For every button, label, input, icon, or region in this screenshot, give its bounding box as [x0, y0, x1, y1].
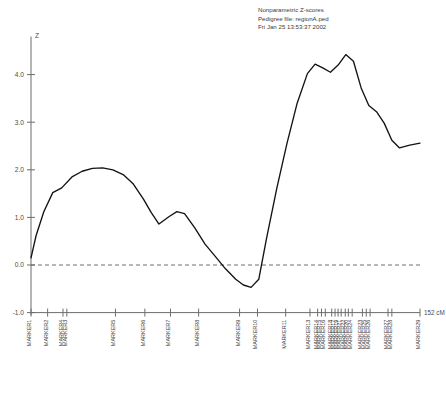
chart-page: Nonparametric Z-scores Pedigree file: re… — [0, 0, 446, 393]
marker-label: MARKER7 — [165, 320, 171, 347]
marker-label: MARKER26 — [365, 320, 371, 350]
z-score-line — [31, 55, 420, 288]
marker-label: MARKER6 — [140, 320, 146, 347]
marker-label: MARKER2 — [43, 320, 49, 347]
marker-label: MARKER16 — [320, 320, 326, 350]
y-axis-tick-label: 2.0 — [15, 166, 24, 173]
marker-label: MARKER3 — [62, 320, 68, 347]
y-axis-tick-label: 4.0 — [15, 71, 24, 78]
marker-label: MARKER5 — [110, 320, 116, 347]
marker-label: MARKER28 — [387, 320, 393, 350]
x-axis-end-label: 152 cM — [424, 309, 445, 316]
marker-label: MARKER9 — [235, 320, 241, 347]
marker-label: MARKER13 — [305, 320, 311, 350]
y-axis-tick-label: 3.0 — [15, 119, 24, 126]
marker-label: MARKER10 — [252, 320, 258, 350]
y-axis-title: Z — [35, 32, 39, 39]
marker-label: MARKER1 — [26, 320, 32, 347]
marker-label: MARKER24 — [347, 320, 353, 350]
y-axis: -1.00.01.02.03.04.0 — [13, 37, 35, 316]
axis-annotations: Z152 cM — [35, 32, 445, 316]
marker-label: MARKER8 — [194, 320, 200, 347]
y-axis-tick-label: 1.0 — [15, 214, 24, 221]
z-score-curve — [31, 55, 420, 288]
marker-label: MARKER29 — [415, 320, 421, 350]
marker-labels: MARKER1MARKER2MARKER4MARKER3MARKER5MARKE… — [26, 309, 421, 350]
linkage-plot: -1.00.01.02.03.04.0 MARKER1MARKER2MARKER… — [0, 0, 446, 393]
y-axis-tick-label: -1.0 — [13, 309, 25, 316]
y-axis-tick-label: 0.0 — [15, 261, 24, 268]
marker-label: MARKER11 — [281, 320, 287, 349]
